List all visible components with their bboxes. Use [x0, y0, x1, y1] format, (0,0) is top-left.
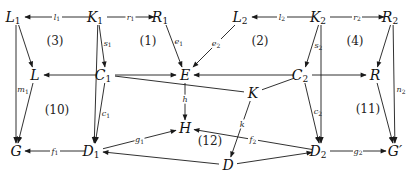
- edge-label-subscript: 1: [25, 88, 29, 95]
- node-subscript: 2: [392, 16, 398, 26]
- node-symbol: L: [4, 9, 14, 25]
- region-label-r10: (10): [45, 103, 70, 117]
- edge-label-subscript: 1: [179, 40, 183, 47]
- node-d: D: [221, 157, 233, 173]
- edge-label-h: h: [182, 95, 187, 104]
- node-symbol: G′: [388, 143, 403, 159]
- node-symbol: H: [178, 120, 192, 136]
- arrow-d-to-d1: [103, 152, 219, 164]
- node-symbol: R: [151, 9, 163, 25]
- node-symbol: E: [179, 67, 190, 83]
- edge-label-subscript: 1: [108, 41, 112, 48]
- region-label-r11: (11): [356, 102, 381, 116]
- node-subscript: 2: [320, 16, 326, 26]
- region-label-r3: (3): [47, 34, 64, 48]
- node-subscript: 2: [242, 16, 248, 26]
- edge-label-subscript: 2: [217, 42, 221, 49]
- node-symbol: C: [95, 67, 106, 83]
- arrow-l1-to-l: [19, 25, 33, 67]
- node-symbol: L: [29, 67, 39, 83]
- edge-label-main: k: [240, 120, 245, 129]
- node-symbol: K: [247, 85, 260, 101]
- edge-label-subscript: 2: [402, 88, 406, 95]
- edge-label-subscript: 2: [318, 110, 322, 117]
- edge-label-subscript: 1: [131, 15, 135, 22]
- node-symbol: G: [10, 143, 21, 159]
- node-subscript: 1: [15, 16, 21, 26]
- node-symbol: D: [309, 143, 321, 159]
- region-label-r2: (2): [252, 34, 269, 48]
- region-label-r12: (12): [198, 134, 223, 148]
- edge-label-subscript: 2: [319, 44, 323, 51]
- node-symbol: R: [381, 9, 393, 25]
- node-g: G: [10, 143, 21, 159]
- arrow-d-to-d2: [237, 152, 312, 163]
- edge-label-subscript: 2: [253, 138, 257, 145]
- node-subscript: 1: [94, 150, 100, 160]
- node-l: L: [29, 67, 39, 83]
- arrow-r2-to-r: [377, 25, 390, 67]
- node-symbol: L: [231, 9, 241, 25]
- node-r: R: [369, 67, 381, 83]
- edge-label-subscript: 1: [106, 112, 110, 119]
- edge-label-subscript: 2: [357, 15, 361, 22]
- arrow-r2-to-gp: [393, 25, 395, 143]
- edge-label-subscript: 1: [140, 138, 144, 145]
- node-h: H: [178, 120, 192, 136]
- node-subscript: 1: [97, 16, 103, 26]
- node-gp: G′: [388, 143, 403, 159]
- node-subscript: 2: [302, 74, 308, 84]
- edge-label-main: h: [182, 95, 187, 104]
- arrow-k1-to-d1: [94, 25, 98, 143]
- edge-label-subscript: 2: [359, 149, 363, 156]
- node-k: K: [247, 85, 260, 101]
- node-subscript: 1: [105, 74, 111, 84]
- node-symbol: C: [292, 67, 303, 83]
- edge-label-e1: e1: [175, 37, 184, 47]
- commutative-diagram: l1r1l2r2m1s1e1e2s2n2hkc1c2f1g1f2g2 L1K1R…: [0, 0, 409, 181]
- edge-label-k: k: [240, 120, 245, 129]
- node-e: E: [179, 67, 190, 83]
- edge-label-subscript: 1: [55, 149, 59, 156]
- node-subscript: 1: [162, 16, 168, 26]
- node-symbol: R: [369, 67, 381, 83]
- node-subscript: 2: [321, 150, 327, 160]
- edge-label-m1: m1: [17, 85, 28, 95]
- edge-label-subscript: 2: [281, 15, 285, 22]
- edge-label-s1: s1: [104, 39, 112, 49]
- edge-label-c1: c1: [102, 109, 110, 119]
- region-label-r4: (4): [347, 34, 364, 48]
- edge-label-n2: n2: [397, 85, 406, 95]
- nodes-layer: L1K1R1L2K2R2LC1EC2RKHGD1DD2G′: [4, 9, 403, 173]
- node-symbol: D: [221, 157, 233, 173]
- region-label-r1: (1): [140, 34, 157, 48]
- edge-label-subscript: 1: [56, 15, 60, 22]
- arrow-k-to-c2: [262, 78, 294, 90]
- node-symbol: D: [82, 143, 94, 159]
